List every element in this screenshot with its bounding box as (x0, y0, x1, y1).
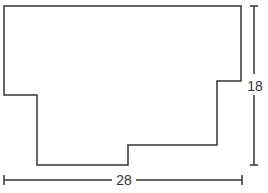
diagram-canvas: 18 28 (0, 0, 268, 193)
height-label: 18 (247, 78, 263, 94)
height-dimension: 18 (247, 6, 263, 165)
shape-outline (4, 6, 241, 165)
width-label: 28 (116, 172, 132, 188)
width-dimension: 28 (4, 172, 242, 188)
